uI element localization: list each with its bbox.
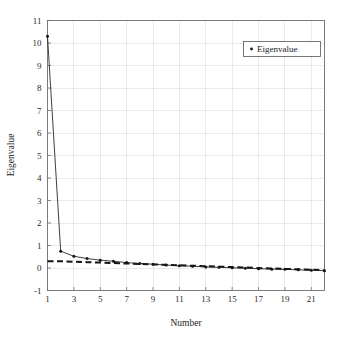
data-point-marker xyxy=(297,268,300,271)
y-tick-label: 11 xyxy=(33,16,42,26)
data-point-marker xyxy=(178,264,181,267)
data-point-marker xyxy=(323,269,326,272)
x-tick-label: 5 xyxy=(98,294,103,304)
data-point-marker xyxy=(112,260,115,263)
data-point-marker xyxy=(191,265,194,268)
y-tick-label: 1 xyxy=(37,241,42,251)
data-point-marker xyxy=(59,250,62,253)
scree-plot-figure: 13579111315171921 -101234567891011 Eigen… xyxy=(0,0,347,338)
x-tick-label: 21 xyxy=(307,294,316,304)
scree-plot-svg: 13579111315171921 -101234567891011 Eigen… xyxy=(0,0,347,338)
x-tick-label: 7 xyxy=(124,294,129,304)
y-tick-label: 7 xyxy=(37,106,42,116)
data-point-marker xyxy=(72,255,75,258)
data-point-marker xyxy=(165,264,168,267)
x-tick-label: 11 xyxy=(175,294,184,304)
data-point-marker xyxy=(99,259,102,262)
x-axis-title: Number xyxy=(170,318,202,328)
y-tick-label: -1 xyxy=(34,286,42,296)
x-tick-label: 19 xyxy=(280,294,290,304)
data-point-marker xyxy=(283,268,286,271)
x-tick-label: 1 xyxy=(45,294,50,304)
y-axis-title: Eigenvalue xyxy=(6,134,16,177)
x-tick-label: 9 xyxy=(151,294,156,304)
y-tick-label: 2 xyxy=(37,218,42,228)
data-point-marker xyxy=(46,35,49,38)
y-tick-label: 3 xyxy=(37,196,42,206)
legend-marker-icon xyxy=(250,48,253,51)
data-point-marker xyxy=(86,257,89,260)
data-point-marker xyxy=(138,262,141,265)
x-tick-label: 3 xyxy=(72,294,77,304)
data-point-marker xyxy=(204,265,207,268)
x-tick-label: 15 xyxy=(228,294,238,304)
y-tick-label: 8 xyxy=(37,83,42,93)
y-tick-label: 4 xyxy=(37,173,42,183)
data-point-marker xyxy=(125,261,128,264)
y-tick-label: 5 xyxy=(37,151,42,161)
y-tick-label: 9 xyxy=(37,61,42,71)
data-point-marker xyxy=(217,266,220,269)
data-point-marker xyxy=(270,268,273,271)
data-point-marker xyxy=(244,267,247,270)
data-point-marker xyxy=(257,267,260,270)
y-tick-label: 10 xyxy=(33,38,43,48)
data-point-marker xyxy=(231,266,234,269)
legend-entry-label: Eigenvalue xyxy=(257,44,297,54)
y-tick-label: 0 xyxy=(37,263,42,273)
x-tick-label: 17 xyxy=(254,294,264,304)
legend[interactable]: Eigenvalue xyxy=(244,42,321,57)
data-point-marker xyxy=(310,269,313,272)
y-tick-label: 6 xyxy=(37,128,42,138)
x-tick-label: 13 xyxy=(201,294,211,304)
data-point-marker xyxy=(152,263,155,266)
